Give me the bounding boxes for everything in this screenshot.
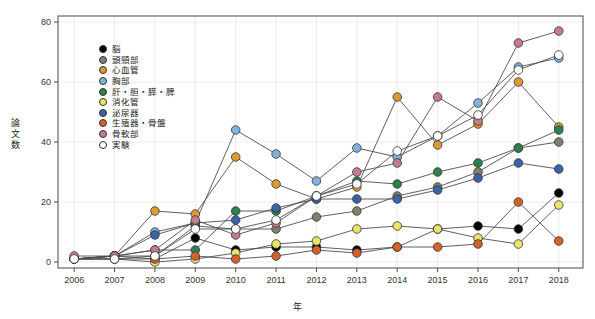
data-point-marker (514, 39, 523, 48)
legend-item[interactable]: 頭頸部 (99, 55, 175, 66)
data-point-marker (554, 138, 563, 147)
data-point-marker (474, 174, 483, 183)
legend-swatch-icon (99, 45, 107, 53)
data-point-marker (554, 165, 563, 174)
data-point-marker (433, 168, 442, 177)
legend-swatch-icon (99, 109, 107, 117)
data-point-marker (272, 240, 281, 249)
data-point-marker (151, 231, 160, 240)
legend-swatch-icon (99, 130, 107, 138)
data-point-marker (70, 255, 79, 264)
data-point-marker (474, 111, 483, 120)
x-tick-label: 2017 (508, 275, 528, 285)
legend-item-label: 心血管 (112, 65, 139, 75)
data-point-marker (231, 216, 240, 225)
y-axis-title: 論文数 (8, 118, 22, 151)
data-point-marker (312, 246, 321, 255)
chart-legend: 脳頭頸部心血管胸部肝・胆・膵・脾消化管泌尿器生殖器・骨盤骨軟部実験 (99, 44, 175, 150)
data-point-marker (554, 201, 563, 210)
data-point-marker (151, 207, 160, 216)
data-point-marker (353, 195, 362, 204)
data-point-marker (393, 147, 402, 156)
data-point-marker (353, 144, 362, 153)
legend-item[interactable]: 脳 (99, 44, 175, 55)
x-tick-label: 2006 (64, 275, 84, 285)
data-point-marker (433, 225, 442, 234)
data-point-marker (514, 144, 523, 153)
y-tick-label: 80 (41, 17, 51, 27)
y-tick-label: 20 (41, 197, 51, 207)
x-axis-title: 年 (0, 300, 595, 313)
legend-item[interactable]: 消化管 (99, 97, 175, 108)
x-tick-label: 2013 (347, 275, 367, 285)
legend-item-label: 脳 (112, 44, 121, 54)
y-tick-label: 60 (41, 77, 51, 87)
data-point-marker (353, 249, 362, 258)
legend-swatch-icon (99, 98, 107, 106)
x-tick-label: 2016 (468, 275, 488, 285)
legend-item-label: 頭頸部 (112, 55, 139, 65)
data-point-marker (433, 243, 442, 252)
legend-item-label: 実験 (112, 140, 130, 150)
legend-swatch-icon (99, 88, 107, 96)
data-point-marker (231, 255, 240, 264)
x-tick-label: 2015 (428, 275, 448, 285)
data-point-marker (514, 66, 523, 75)
legend-item-label: 胸部 (112, 76, 130, 86)
x-tick-label: 2010 (226, 275, 246, 285)
data-point-marker (312, 213, 321, 222)
x-tick-label: 2009 (185, 275, 205, 285)
legend-item-label: 肝・胆・膵・脾 (112, 87, 175, 97)
data-point-marker (191, 225, 200, 234)
legend-item[interactable]: 泌尿器 (99, 108, 175, 119)
data-point-marker (110, 255, 119, 264)
data-point-marker (514, 225, 523, 234)
data-point-marker (231, 153, 240, 162)
legend-swatch-icon (99, 141, 107, 149)
x-tick-label: 2008 (145, 275, 165, 285)
data-point-marker (151, 252, 160, 261)
data-point-marker (514, 198, 523, 207)
data-point-marker (393, 195, 402, 204)
data-point-marker (433, 132, 442, 141)
data-point-marker (272, 216, 281, 225)
data-point-marker (433, 186, 442, 195)
data-point-marker (191, 216, 200, 225)
data-point-marker (393, 243, 402, 252)
line-chart-plot: 0204060802006200720082009201020112012201… (0, 0, 595, 319)
data-point-marker (393, 180, 402, 189)
x-tick-label: 2011 (266, 275, 285, 285)
data-point-marker (393, 93, 402, 102)
legend-item[interactable]: 肝・胆・膵・脾 (99, 86, 175, 97)
data-point-marker (554, 126, 563, 135)
data-point-marker (312, 237, 321, 246)
data-point-marker (433, 141, 442, 150)
x-tick-label: 2014 (387, 275, 407, 285)
data-point-marker (312, 177, 321, 186)
legend-item[interactable]: 胸部 (99, 76, 175, 87)
legend-item[interactable]: 骨軟部 (99, 129, 175, 140)
legend-swatch-icon (99, 56, 107, 64)
legend-swatch-icon (99, 66, 107, 74)
data-point-marker (353, 180, 362, 189)
data-point-marker (393, 222, 402, 231)
data-point-marker (272, 180, 281, 189)
data-point-marker (514, 240, 523, 249)
data-point-marker (393, 159, 402, 168)
data-point-marker (514, 78, 523, 87)
data-point-marker (474, 240, 483, 249)
y-tick-label: 40 (41, 137, 51, 147)
legend-item-label: 泌尿器 (112, 108, 139, 118)
legend-item-label: 消化管 (112, 97, 139, 107)
legend-item-label: 生殖器・骨盤 (112, 118, 166, 128)
legend-item[interactable]: 実験 (99, 139, 175, 150)
data-point-marker (272, 204, 281, 213)
legend-item[interactable]: 生殖器・骨盤 (99, 118, 175, 129)
legend-item[interactable]: 心血管 (99, 65, 175, 76)
data-point-marker (231, 126, 240, 135)
data-point-marker (433, 93, 442, 102)
data-point-marker (554, 237, 563, 246)
legend-item-label: 骨軟部 (112, 129, 139, 139)
data-point-marker (353, 225, 362, 234)
data-point-marker (272, 252, 281, 261)
